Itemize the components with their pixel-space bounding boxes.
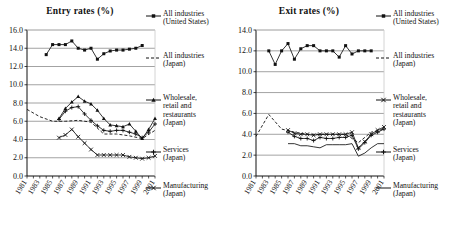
- legend-item-4[interactable]: Manufacturing (Japan): [145, 182, 208, 199]
- figure-root: Entry rates (%) 0.02.04.06.08.010.012.01…: [0, 0, 458, 229]
- exit-rates-panel: Exit rates (%) 0.02.04.06.08.010.012.014…: [229, 0, 458, 229]
- x-tick-label: 1991: [77, 178, 93, 196]
- legend-item-label: All industries (United States): [392, 10, 439, 27]
- x-tick-label: 1997: [115, 178, 131, 196]
- entry-chart-svg: 0.02.04.06.08.010.012.014.016.0198119831…: [0, 24, 160, 224]
- legend-item-0[interactable]: All industries (United States): [145, 10, 209, 27]
- legend-item-4[interactable]: Manufacturing (Japan): [375, 182, 438, 199]
- entry-plot-area: 0.02.04.06.08.010.012.014.016.0198119831…: [0, 24, 160, 224]
- x-tick-label: 1995: [332, 178, 348, 196]
- x-tick-label: 1983: [26, 178, 42, 196]
- x-tick-label: 1989: [293, 178, 309, 196]
- series-4: [57, 128, 157, 161]
- legend-marker-solid-square-icon: [375, 11, 392, 21]
- x-tick-label: 1985: [268, 178, 284, 196]
- y-tick-label: 14.0: [238, 26, 252, 35]
- legend-item-1[interactable]: All industries (Japan): [375, 52, 434, 69]
- x-tick-label: 1995: [103, 178, 119, 196]
- exit-legend: All industries (United States)All indust…: [375, 6, 458, 206]
- y-tick-label: 12.0: [9, 62, 23, 71]
- y-tick-label: 6.0: [13, 117, 23, 126]
- series-2: [57, 95, 157, 140]
- x-tick-label: 1989: [64, 178, 80, 196]
- x-tick-label: 1987: [51, 178, 67, 196]
- legend-item-label: Services (Japan): [392, 146, 419, 163]
- legend-marker-solid-plus-icon: [375, 147, 392, 157]
- series-4: [288, 144, 384, 157]
- y-tick-label: 6.0: [242, 109, 252, 118]
- y-tick-label: 12.0: [238, 46, 252, 55]
- entry-rates-panel: Entry rates (%) 0.02.04.06.08.010.012.01…: [0, 0, 229, 229]
- x-tick-label: 1993: [90, 178, 106, 196]
- y-tick-label: 4.0: [242, 130, 252, 139]
- y-tick-label: 4.0: [13, 135, 23, 144]
- x-tick-label: 1981: [242, 178, 258, 196]
- legend-item-label: All industries (Japan): [392, 52, 434, 69]
- y-tick-label: 10.0: [238, 67, 252, 76]
- x-tick-label: 1991: [306, 178, 322, 196]
- entry-legend: All industries (United States)All indust…: [145, 6, 229, 206]
- series-0: [45, 39, 144, 60]
- x-tick-label: 1985: [39, 178, 55, 196]
- legend-item-label: All industries (Japan): [162, 52, 204, 69]
- x-tick-label: 1997: [344, 178, 360, 196]
- legend-marker-solid-plus-icon: [145, 147, 162, 157]
- y-tick-label: 16.0: [9, 26, 23, 35]
- y-tick-label: 2.0: [242, 151, 252, 160]
- series-3: [286, 127, 386, 151]
- x-tick-label: 1999: [357, 178, 373, 196]
- legend-item-2[interactable]: Wholesale, retail and restaurants (Japan…: [145, 94, 197, 128]
- y-tick-label: 8.0: [13, 99, 23, 108]
- legend-item-label: Manufacturing (Japan): [162, 182, 208, 199]
- exit-chart-title: Exit rates (%): [229, 6, 389, 16]
- legend-item-label: Wholesale, retail and restaurants (Japan…: [162, 94, 197, 128]
- legend-item-3[interactable]: Services (Japan): [145, 146, 189, 163]
- legend-marker-solid-x-icon: [375, 95, 392, 105]
- x-tick-label: 1999: [128, 178, 144, 196]
- legend-marker-solid-square-icon: [145, 11, 162, 21]
- exit-chart-svg: 0.02.04.06.08.010.012.014.01981198319851…: [229, 24, 389, 224]
- legend-item-3[interactable]: Services (Japan): [375, 146, 419, 163]
- legend-item-label: All industries (United States): [162, 10, 209, 27]
- legend-item-0[interactable]: All industries (United States): [375, 10, 439, 27]
- legend-marker-solid-line-icon: [375, 183, 392, 193]
- legend-item-label: Services (Japan): [162, 146, 189, 163]
- legend-marker-solid-x-icon: [145, 183, 162, 193]
- legend-marker-solid-triangle-icon: [145, 95, 162, 105]
- x-tick-label: 1987: [280, 178, 296, 196]
- x-tick-label: 1981: [13, 178, 29, 196]
- y-tick-label: 2.0: [13, 153, 23, 162]
- legend-marker-dashed-plain-icon: [375, 53, 392, 63]
- x-tick-label: 1983: [255, 178, 271, 196]
- y-tick-label: 8.0: [242, 88, 252, 97]
- legend-item-1[interactable]: All industries (Japan): [145, 52, 204, 69]
- entry-chart-title: Entry rates (%): [0, 6, 160, 16]
- exit-plot-area: 0.02.04.06.08.010.012.014.01981198319851…: [229, 24, 389, 224]
- legend-item-label: Manufacturing (Japan): [392, 182, 438, 199]
- x-tick-label: 1993: [319, 178, 335, 196]
- legend-item-label: Wholesale, retail and restaurants (Japan…: [392, 94, 427, 128]
- legend-item-2[interactable]: Wholesale, retail and restaurants (Japan…: [375, 94, 427, 128]
- series-0: [267, 42, 372, 66]
- legend-marker-dashed-plain-icon: [145, 53, 162, 63]
- y-tick-label: 14.0: [9, 44, 23, 53]
- y-tick-label: 10.0: [9, 80, 23, 89]
